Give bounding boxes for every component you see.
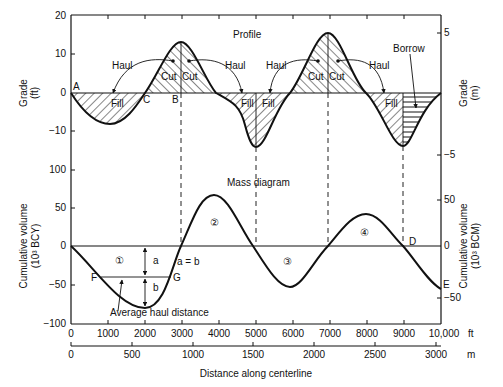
point-e: E (443, 279, 450, 290)
region-2-marker: ② (210, 217, 219, 228)
svg-text:−100: −100 (43, 318, 66, 329)
svg-text:7000: 7000 (319, 328, 342, 339)
point-f: F (91, 272, 97, 283)
haul-label-2: Haul (225, 60, 246, 71)
svg-text:0: 0 (68, 349, 74, 360)
mass-right-axis-title: Cumulative volume (458, 203, 469, 288)
svg-text:500: 500 (124, 349, 141, 360)
mass-diagram-title: Mass diagram (227, 177, 290, 188)
svg-text:1000: 1000 (97, 328, 120, 339)
profile-right-axis-title: Grade (458, 79, 469, 107)
cut-label-3: Cut (308, 71, 324, 82)
profile-right-axis-unit: (m) (469, 86, 480, 101)
svg-text:0: 0 (68, 328, 74, 339)
svg-text:0: 0 (444, 240, 450, 251)
svg-text:6000: 6000 (282, 328, 305, 339)
profile-title: Profile (233, 29, 262, 40)
svg-text:−5: −5 (444, 149, 456, 160)
point-a: A (73, 81, 80, 92)
svg-text:0: 0 (60, 240, 66, 251)
haul-label-4: Haul (369, 60, 390, 71)
svg-text:2000: 2000 (134, 328, 157, 339)
m-unit: m (467, 349, 475, 360)
svg-text:50: 50 (444, 194, 456, 205)
label-a: a (153, 255, 159, 266)
region-4-marker: ④ (360, 227, 369, 238)
svg-text:20: 20 (55, 10, 67, 21)
mass-left-axis-title: Cumulative volume (18, 203, 29, 288)
haul-label-3: Haul (266, 60, 287, 71)
x-axis-ft-ticks: 0 1000 2000 3000 4000 5000 6000 7000 800… (68, 328, 474, 339)
fill-label-2: Fill (241, 98, 254, 109)
mass-diagram-chart: Mass diagram ① ② ③ ④ a b a = b Average h… (71, 177, 450, 318)
label-a-equals-b: a = b (177, 256, 200, 267)
left-axis-ticks: 20 10 0 −10 100 50 0 −50 −100 (43, 10, 66, 329)
svg-text:100: 100 (49, 164, 66, 175)
profile-left-axis-title: Grade (18, 79, 29, 107)
mass-right-axis-unit: (10³ BCM) (470, 223, 481, 269)
svg-text:3000: 3000 (171, 328, 194, 339)
region-1-marker: ① (115, 255, 124, 266)
svg-text:5: 5 (444, 27, 450, 38)
point-c: C (143, 94, 150, 105)
cut-label-2: Cut (182, 71, 198, 82)
average-haul-label: Average haul distance (110, 307, 209, 318)
svg-text:−10: −10 (49, 125, 66, 136)
svg-text:2500: 2500 (364, 349, 387, 360)
cut-region-1 (145, 42, 216, 93)
haul-label-1: Haul (112, 60, 133, 71)
ft-unit: ft (468, 328, 474, 339)
svg-text:1000: 1000 (182, 349, 205, 360)
svg-text:−50: −50 (444, 292, 461, 303)
svg-text:2000: 2000 (303, 349, 326, 360)
point-g: G (173, 272, 181, 283)
point-d: D (409, 236, 416, 247)
cut-label-4: Cut (329, 71, 345, 82)
cut-label-1: Cut (161, 71, 177, 82)
x-axis-title: Distance along centerline (200, 368, 313, 379)
mass-left-axis-unit: (10³ BCY) (30, 224, 41, 268)
svg-text:3000: 3000 (425, 349, 448, 360)
fill-label-4: Fill (385, 98, 398, 109)
region-3-marker: ③ (283, 256, 292, 267)
svg-text:5000: 5000 (245, 328, 268, 339)
fill-label-1: Fill (111, 98, 124, 109)
point-b: B (172, 94, 179, 105)
svg-text:10: 10 (55, 48, 67, 59)
svg-text:1500: 1500 (242, 349, 265, 360)
profile-left-axis-unit: (ft) (29, 87, 40, 99)
svg-text:−50: −50 (49, 279, 66, 290)
svg-text:8000: 8000 (356, 328, 379, 339)
mass-haul-diagram: Profile Haul Haul Haul Haul Cut Cut Cut … (0, 0, 503, 387)
fill-label-3: Fill (262, 98, 275, 109)
svg-text:4000: 4000 (208, 328, 231, 339)
svg-text:10,000: 10,000 (429, 328, 460, 339)
borrow-region (403, 93, 441, 146)
profile-chart: Profile Haul Haul Haul Haul Cut Cut Cut … (71, 29, 441, 147)
svg-text:50: 50 (55, 202, 67, 213)
borrow-label: Borrow (393, 43, 425, 54)
svg-text:0: 0 (60, 87, 66, 98)
svg-text:9000: 9000 (393, 328, 416, 339)
label-b: b (153, 282, 159, 293)
x-axis-m: 0 500 1000 1500 2000 2500 3000 m Distanc… (68, 342, 475, 379)
